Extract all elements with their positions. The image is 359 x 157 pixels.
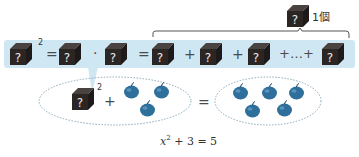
svg-text:?: ? [110,51,116,65]
cube-icon: ? [152,43,174,65]
cube-icon: ? [322,43,344,65]
cube-icon: ? [200,43,222,65]
apple-icon [244,101,261,118]
cube-icon: ? [287,5,309,27]
count-label: 1個 [312,12,330,23]
svg-text:?: ? [205,51,211,65]
cube-icon: ? [248,43,270,65]
cube-icon: ? [59,43,81,65]
plus-sign: + [104,94,116,108]
cube-icon: ? [105,43,127,65]
equals-sign: = [198,95,210,109]
apple-icon [261,83,278,100]
plus-ellipsis-plus: +…+ [279,47,314,60]
svg-text:?: ? [157,51,163,65]
brace [153,28,349,38]
equation-rest: + 3 = 5 [174,135,217,148]
apple-icon [153,82,170,99]
cube-icon: ? [72,88,94,110]
cube-icon: ? [10,43,32,65]
apple-icon [232,83,249,100]
svg-text:?: ? [327,51,333,65]
svg-text:?: ? [292,13,298,27]
svg-text:?: ? [64,51,70,65]
equation-exponent: 2 [166,134,170,142]
svg-text:?: ? [15,51,21,65]
apple-icon [276,100,293,117]
plus-sign: + [232,47,244,61]
equals-sign: = [46,47,58,61]
apple-icon [139,100,156,117]
svg-text:?: ? [253,51,259,65]
svg-text:?: ? [77,96,83,110]
diagram: ? 2 = ? · ? = ? + ? + ? +…+ ? ? 1個 ? 2 +… [0,0,359,157]
plus-sign: + [184,47,196,61]
apple-icon [123,82,140,99]
superscript: 2 [38,39,43,47]
apple-icon [288,83,305,100]
superscript: 2 [97,84,102,92]
equals-sign: = [138,47,150,61]
equation: x2 + 3 = 5 [160,134,217,148]
dot-operator: · [93,46,97,60]
